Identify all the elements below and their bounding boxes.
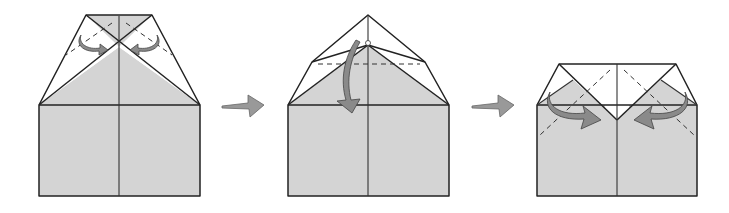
next-step-arrow-icon (222, 95, 264, 117)
origami-diagram: Square with top corners folded to center… (0, 0, 729, 213)
step-1-figure (39, 15, 200, 196)
step-2-figure (288, 15, 449, 196)
next-step-arrow-icon (472, 95, 514, 117)
step-3-figure (537, 64, 697, 196)
